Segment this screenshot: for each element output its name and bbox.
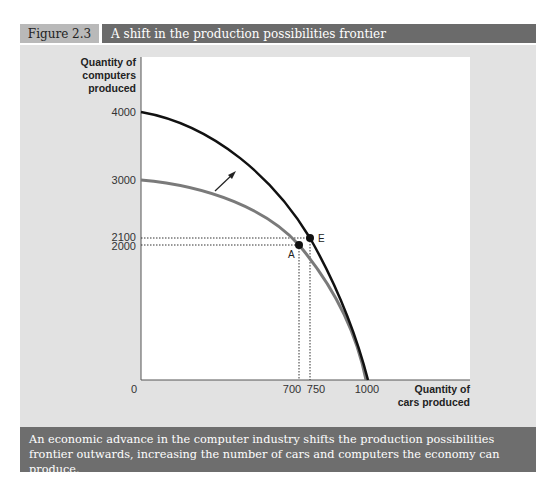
ppf-chart: A E 4000 3000 2100 2000 Quantity of comp… — [0, 0, 556, 492]
y-axis-label-line3: produced — [88, 82, 136, 94]
y-axis-label-line2: computers — [82, 69, 136, 81]
point-a-marker — [295, 241, 303, 249]
x-tick-0: 0 — [131, 383, 137, 395]
figure-caption: An economic advance in the computer indu… — [20, 427, 536, 472]
x-axis-label-line1: Quantity of — [415, 383, 471, 395]
y-tick-4000: 4000 — [112, 106, 136, 118]
point-e-marker — [306, 234, 314, 242]
y-axis-label-line1: Quantity of — [81, 56, 137, 68]
x-tick-700: 700 — [283, 383, 301, 395]
point-e-label: E — [318, 233, 325, 244]
point-a-label: A — [288, 249, 295, 260]
plot-area — [141, 57, 470, 380]
x-tick-1000: 1000 — [355, 383, 379, 395]
x-axis-label-line2: cars produced — [398, 396, 470, 408]
x-tick-750: 750 — [307, 383, 325, 395]
y-tick-2000: 2000 — [112, 240, 136, 252]
y-tick-3000: 3000 — [112, 174, 136, 186]
